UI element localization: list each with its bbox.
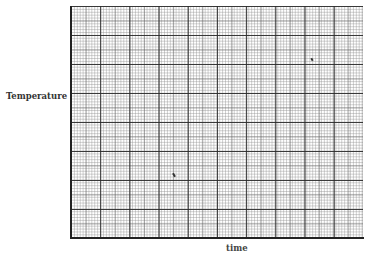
y-axis-label: Temperature	[6, 91, 67, 101]
x-axis-label: time	[226, 243, 248, 253]
y-axis-line	[70, 6, 72, 239]
graph-paper-grid	[71, 6, 363, 238]
x-axis-line	[70, 237, 364, 239]
